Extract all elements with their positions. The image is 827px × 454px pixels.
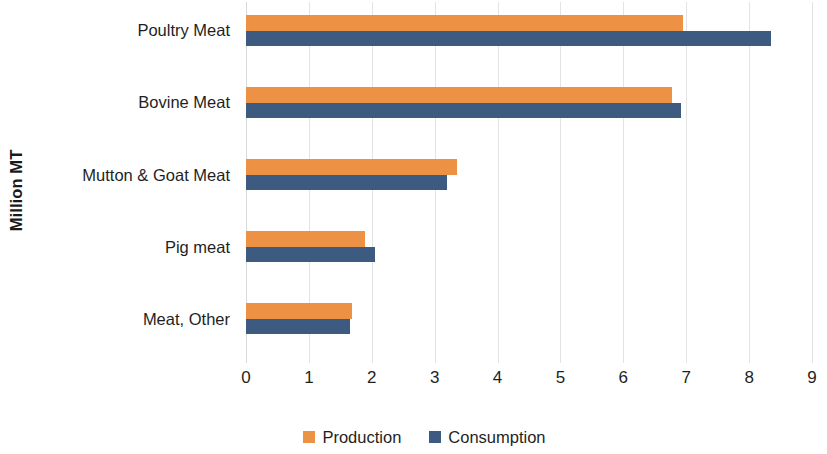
bar-consumption bbox=[246, 247, 375, 262]
plot-area bbox=[246, 2, 812, 363]
bar-group bbox=[246, 87, 812, 118]
y-axis-title: Million MT bbox=[0, 0, 34, 380]
bar-chart-figure: Million MT Poultry MeatBovine MeatMutton… bbox=[0, 0, 827, 454]
x-tick-label: 8 bbox=[734, 368, 764, 388]
legend-entry-consumption[interactable]: Consumption bbox=[429, 428, 545, 447]
x-tick-label: 3 bbox=[420, 368, 450, 388]
x-tick-label: 9 bbox=[797, 368, 827, 388]
category-label: Poultry Meat bbox=[137, 15, 230, 45]
category-label: Bovine Meat bbox=[138, 87, 230, 117]
bar-group bbox=[246, 303, 812, 334]
legend-label: Production bbox=[322, 428, 401, 447]
bars-layer bbox=[246, 2, 812, 363]
bar-production bbox=[246, 87, 672, 103]
category-axis: Poultry MeatBovine MeatMutton & Goat Mea… bbox=[34, 2, 238, 363]
gridline-9 bbox=[812, 2, 813, 363]
bar-group bbox=[246, 159, 812, 190]
chart-legend: ProductionConsumption bbox=[0, 424, 827, 450]
bar-production bbox=[246, 231, 365, 247]
bar-consumption bbox=[246, 175, 447, 190]
legend-entry-production[interactable]: Production bbox=[303, 428, 401, 447]
bar-group bbox=[246, 231, 812, 262]
x-tick-label: 2 bbox=[357, 368, 387, 388]
bar-production bbox=[246, 159, 457, 175]
category-label: Pig meat bbox=[165, 232, 230, 262]
x-tick-label: 1 bbox=[294, 368, 324, 388]
bar-consumption bbox=[246, 31, 771, 46]
bar-consumption bbox=[246, 103, 681, 118]
x-tick-label: 7 bbox=[671, 368, 701, 388]
x-tick-label: 5 bbox=[545, 368, 575, 388]
legend-swatch-icon bbox=[303, 431, 315, 443]
x-tick-label: 0 bbox=[231, 368, 261, 388]
bar-production bbox=[246, 15, 683, 31]
category-label: Mutton & Goat Meat bbox=[82, 160, 230, 190]
x-axis-tick-labels: 0123456789 bbox=[246, 368, 812, 396]
x-tick-label: 6 bbox=[608, 368, 638, 388]
x-tick-label: 4 bbox=[483, 368, 513, 388]
legend-label: Consumption bbox=[448, 428, 545, 447]
bar-consumption bbox=[246, 319, 350, 334]
bar-group bbox=[246, 15, 812, 46]
bar-production bbox=[246, 303, 352, 319]
legend-swatch-icon bbox=[429, 431, 441, 443]
y-axis-title-text: Million MT bbox=[8, 149, 27, 231]
category-label: Meat, Other bbox=[143, 304, 230, 334]
